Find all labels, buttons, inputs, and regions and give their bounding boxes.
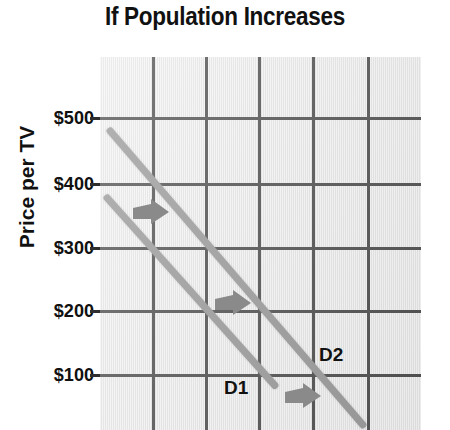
gridline-vertical-5 <box>367 57 370 430</box>
curve-label-d1: D1 <box>224 377 248 399</box>
page-title: If Population Increases <box>23 2 428 31</box>
shift-arrow-middle-icon <box>213 290 253 320</box>
y-tick-label-200: $200 <box>0 300 94 322</box>
shift-arrow-upper-icon <box>131 199 171 229</box>
curve-label-d2: D2 <box>319 344 343 366</box>
shift-arrow-lower-icon <box>283 383 323 413</box>
y-tick-label-300: $300 <box>0 237 94 259</box>
y-tick-label-100: $100 <box>0 364 94 386</box>
y-tick-label-400: $400 <box>0 173 94 195</box>
y-tick-label-500: $500 <box>0 107 94 129</box>
chart-plot-area: D1 D2 <box>100 57 421 430</box>
